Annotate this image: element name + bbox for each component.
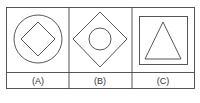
- panel-b-label: (B): [94, 76, 106, 86]
- panel-c-figure: [140, 17, 188, 65]
- panel-b-figure: [73, 12, 127, 67]
- panel-a-figure: [14, 15, 62, 63]
- figure-options-grid: (A) (B) (C): [0, 0, 200, 103]
- triangle-shape: [145, 22, 181, 59]
- diamond-shape: [21, 22, 55, 56]
- panel-c-label: (C): [157, 76, 170, 86]
- diamond-shape: [73, 12, 127, 67]
- panel-a-label: (A): [32, 76, 44, 86]
- circle-shape: [89, 28, 111, 50]
